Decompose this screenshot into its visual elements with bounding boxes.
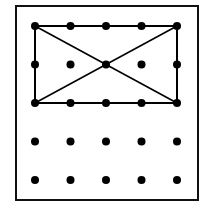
grid-dot [138,61,146,69]
geoboard-diagram [0,0,207,216]
grid-dot [31,138,39,146]
grid-dot [173,22,181,30]
grid-dot [173,99,181,107]
grid-dot [102,99,110,107]
grid-dot [102,138,110,146]
grid-dot [31,176,39,184]
grid-dot [138,22,146,30]
grid-dot [138,99,146,107]
grid-dot [173,176,181,184]
grid-dot [67,176,75,184]
grid-dot [31,22,39,30]
grid-dot [67,22,75,30]
grid-dot [102,61,110,69]
grid-dot [173,138,181,146]
grid-dot [31,99,39,107]
grid-dot [67,99,75,107]
grid-dot [31,61,39,69]
grid-dot [138,138,146,146]
grid-dot [173,61,181,69]
grid-dot [102,22,110,30]
grid-dot [67,138,75,146]
grid-dot [67,61,75,69]
grid-dot [102,176,110,184]
grid-dot [138,176,146,184]
